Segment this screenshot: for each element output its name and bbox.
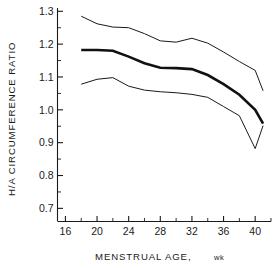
y-axis-title: H/A CIRCUMFERENCE RATIO (6, 42, 17, 196)
y-tick-label: 1.1 (39, 71, 54, 83)
data-series-group (81, 16, 263, 148)
y-tick-label: 1.3 (39, 5, 54, 17)
x-axis-major-ticks (65, 216, 255, 222)
x-tick-label: 36 (218, 225, 230, 237)
y-axis-group: 0.70.80.91.01.11.21.3 (39, 5, 63, 221)
x-axis-tick-labels: 16202428323640 (60, 225, 262, 237)
x-tick-label: 20 (91, 225, 103, 237)
series-line-upper-percentile (81, 16, 263, 91)
x-tick-label: 32 (186, 225, 198, 237)
series-line-mean (81, 50, 263, 124)
y-tick-label: 1.0 (39, 104, 54, 116)
x-tick-label: 16 (60, 225, 72, 237)
y-tick-label: 0.9 (39, 136, 54, 148)
chart-figure: 0.70.80.91.01.11.21.3 16202428323640 H/A… (0, 0, 279, 268)
series-line-lower-percentile (81, 78, 263, 149)
x-axis-group: 16202428323640 (58, 216, 272, 237)
x-tick-label: 24 (123, 225, 135, 237)
x-axis-title-unit: wk (213, 253, 224, 262)
y-tick-label: 0.8 (39, 169, 54, 181)
ha-ratio-line-chart: 0.70.80.91.01.11.21.3 16202428323640 H/A… (0, 0, 279, 268)
y-axis-tick-labels: 0.70.80.91.01.11.21.3 (39, 5, 54, 214)
x-axis-title: MENSTRUAL AGE, (95, 251, 191, 262)
x-tick-label: 40 (249, 225, 261, 237)
y-axis-major-ticks (58, 11, 64, 208)
x-tick-label: 28 (154, 225, 166, 237)
y-tick-label: 0.7 (39, 202, 54, 214)
y-tick-label: 1.2 (39, 38, 54, 50)
